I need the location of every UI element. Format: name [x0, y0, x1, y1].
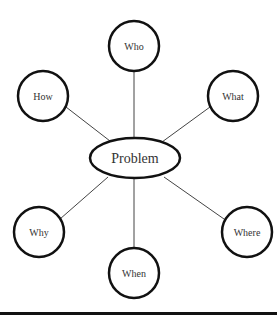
node-who-label: Who	[124, 41, 143, 52]
node-where: Where	[222, 207, 272, 257]
node-why-label: Why	[29, 227, 48, 238]
node-who: Who	[109, 21, 159, 71]
center-node-problem: Problem	[90, 138, 180, 178]
node-what: What	[208, 71, 258, 121]
node-when-label: When	[122, 268, 146, 279]
connector-what	[162, 107, 210, 142]
problem-mind-map: Problem Who How What Why Where When	[0, 0, 277, 318]
node-how-label: How	[33, 91, 53, 102]
node-when: When	[109, 248, 159, 298]
node-why: Why	[14, 207, 64, 257]
bottom-rule	[0, 312, 277, 315]
node-what-label: What	[222, 91, 244, 102]
node-where-label: Where	[234, 227, 261, 238]
connector-how	[66, 107, 110, 141]
connector-where	[164, 177, 224, 219]
connector-why	[60, 177, 108, 219]
node-how: How	[18, 71, 68, 121]
center-node-label: Problem	[111, 151, 159, 166]
